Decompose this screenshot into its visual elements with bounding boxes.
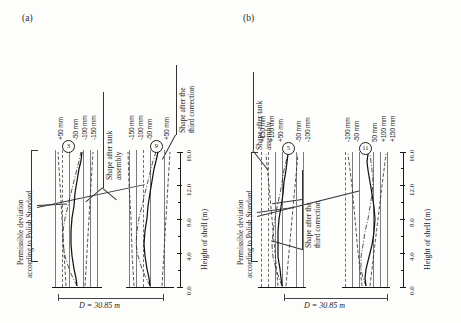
baseline-a9 xyxy=(126,287,174,288)
shape-after-correction-label-a-line1: Shape after the xyxy=(178,87,187,133)
mm-label-a3-p50: +50 mm xyxy=(57,117,64,140)
axis-tick-b-4 xyxy=(400,253,405,254)
axis-ticklabel-a-12: 12.0 xyxy=(185,184,193,196)
profile-number-badge-b5: 5 xyxy=(282,142,295,155)
axis-tick-a-8 xyxy=(177,219,182,220)
axis-tick-b-0 xyxy=(400,287,406,288)
profile-number-badge-b11: 11 xyxy=(359,142,372,155)
axis-tick-b-m2 xyxy=(401,236,403,237)
axis-ticklabel-b-8: 8.0 xyxy=(408,218,416,227)
mm-label-b5-m100: -100 mm xyxy=(304,117,311,142)
profile-number-badge-a9: 9 xyxy=(150,140,163,153)
axis-ticklabel-a-4: 4.0 xyxy=(185,252,193,261)
mm-label-a3-m150: -150 mm xyxy=(90,115,97,140)
dim-cap-a-right xyxy=(163,294,164,301)
axis-tick-a-0 xyxy=(177,287,183,288)
dim-line-a xyxy=(58,298,163,299)
axis-tick-a-m4 xyxy=(178,168,180,169)
figure-container: (a) (b) Permissible deviation according … xyxy=(0,0,461,323)
curves-b5 xyxy=(258,152,318,290)
dim-line-b xyxy=(284,298,387,299)
axis-tick-a-16 xyxy=(177,152,183,153)
panel-label-a: (a) xyxy=(22,13,33,23)
axis-ticklabel-b-4: 4.0 xyxy=(408,252,416,261)
mm-label-a3-m100: -100 mm xyxy=(81,115,88,140)
shape-after-assembly-label-a-line2: assembly xyxy=(114,152,123,180)
permissible-deviation-label-a-line1: Permissible deviation xyxy=(16,199,25,265)
mm-label-b5-p150: +150 mm xyxy=(259,116,266,142)
axis-tick-a-4 xyxy=(177,253,182,254)
axis-tick-a-m1 xyxy=(178,270,180,271)
mm-label-b11-m50: -50 mm xyxy=(353,121,360,142)
axis-ticklabel-a-8: 8.0 xyxy=(185,218,193,227)
dim-cap-b-left xyxy=(284,294,285,301)
axis-tick-b-8 xyxy=(400,219,405,220)
axis-title-b: Height of shell (m) xyxy=(423,209,432,270)
shape-after-correction-label-a-line2: third correction xyxy=(187,86,196,133)
mm-label-a3-m50: -50 mm xyxy=(72,119,79,140)
baseline-b5 xyxy=(258,287,306,288)
diameter-label-a: D = 30.85 m xyxy=(79,301,120,310)
dim-cap-a-left xyxy=(58,294,59,301)
mm-label-a9-p50: +50 mm xyxy=(163,117,170,140)
axis-ticklabel-b-0: 0.0 xyxy=(408,286,416,295)
mm-label-a9-m100: -100 mm xyxy=(137,115,144,140)
mm-label-b11-m100: -100 mm xyxy=(344,117,351,142)
axis-tick-a-12 xyxy=(177,185,182,186)
axis-tick-a-m2 xyxy=(178,236,180,237)
axis-title-a: Height of shell (m) xyxy=(200,209,209,270)
dim-cap-b-right xyxy=(387,294,388,301)
shape-correction-callout-rule-a xyxy=(176,65,177,135)
axis-tick-b-m3 xyxy=(401,202,403,203)
permissible-deviation-label-b-line1: Permissible deviation xyxy=(236,199,245,265)
axis-ticklabel-a-16: 16.0 xyxy=(185,150,193,162)
mm-label-a9-m50: -50 mm xyxy=(146,119,153,140)
curves-a9 xyxy=(126,150,186,290)
baseline-b11 xyxy=(342,287,390,288)
profile-number-badge-a3: 3 xyxy=(62,140,75,153)
axis-tick-b-m4 xyxy=(401,168,403,169)
mm-label-a9-m150: -150 mm xyxy=(128,115,135,140)
axis-tick-a-m3 xyxy=(178,202,180,203)
shape-assembly-callout-rule-b xyxy=(253,72,254,150)
permissible-bracket-b xyxy=(251,152,258,262)
baseline-a3 xyxy=(52,287,102,288)
mm-label-b11-p50: 50 mm xyxy=(371,123,378,142)
mm-label-b5-p100: +100 mm xyxy=(268,116,275,142)
mm-label-b5-m50: -50 mm xyxy=(295,121,302,142)
axis-tick-b-16 xyxy=(400,152,406,153)
mm-label-b11-p150: +150 mm xyxy=(389,116,396,142)
axis-tick-b-m1 xyxy=(401,270,403,271)
panel-label-b: (b) xyxy=(243,13,254,23)
axis-tick-b-12 xyxy=(400,185,405,186)
axis-ticklabel-b-12: 12.0 xyxy=(408,184,416,196)
axis-ticklabel-b-16: 16.0 xyxy=(408,150,416,162)
axis-ticklabel-a-0: 0.0 xyxy=(185,286,193,295)
curves-b11 xyxy=(342,152,402,290)
diameter-label-b: D = 30.85 m xyxy=(304,301,345,310)
curves-a3 xyxy=(52,150,112,290)
mm-label-b11-p100: +100 mm xyxy=(380,116,387,142)
mm-label-b5-p50: +50 mm xyxy=(277,119,284,142)
